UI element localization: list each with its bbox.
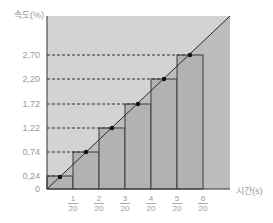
bar-5	[151, 79, 177, 189]
data-point	[162, 77, 166, 81]
x-tick-numerator: 3	[123, 194, 127, 203]
data-point	[58, 175, 62, 179]
data-point	[188, 53, 192, 57]
bar-6	[177, 55, 203, 189]
chart-canvas	[0, 0, 273, 223]
y-tick-label: 1,22	[10, 123, 40, 133]
y-tick-label: 0	[10, 184, 40, 194]
y-tick-label: 0,74	[10, 147, 40, 157]
x-tick-numerator: 2	[97, 194, 101, 203]
data-point	[84, 150, 88, 154]
x-tick-numerator: 6	[201, 194, 205, 203]
x-tick-label: 3 20	[117, 194, 133, 213]
x-tick-numerator: 5	[175, 194, 179, 203]
y-tick-label: 2,20	[10, 74, 40, 84]
x-tick-label: 2 20	[91, 194, 107, 213]
x-tick-label: 1 20	[65, 194, 81, 213]
x-axis-title: 시간(s)	[236, 186, 263, 196]
x-tick-denominator: 20	[121, 204, 130, 213]
x-tick-denominator: 20	[69, 204, 78, 213]
x-tick-denominator: 20	[199, 204, 208, 213]
y-axis-title: 속도(%)	[14, 10, 44, 20]
x-tick-label: 4 20	[143, 194, 159, 213]
y-tick-label: 2,70	[10, 50, 40, 60]
data-point	[110, 126, 114, 130]
bar-4	[125, 104, 151, 189]
x-tick-numerator: 1	[71, 194, 75, 203]
bar-2	[73, 152, 99, 189]
x-tick-numerator: 4	[149, 194, 153, 203]
data-point	[136, 102, 140, 106]
y-tick-label: 1,72	[10, 99, 40, 109]
y-tick-label: 0,24	[10, 171, 40, 181]
x-tick-denominator: 20	[95, 204, 104, 213]
bar-3	[99, 128, 125, 189]
x-tick-label: 5 20	[169, 194, 185, 213]
x-tick-denominator: 20	[147, 204, 156, 213]
x-tick-denominator: 20	[173, 204, 182, 213]
x-tick-label: 6 20	[195, 194, 211, 213]
